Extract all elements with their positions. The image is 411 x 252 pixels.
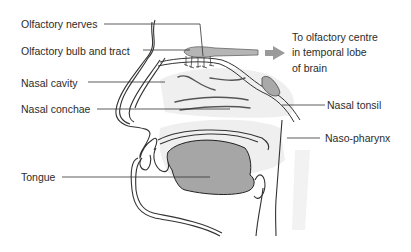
label-nasal-tonsil: Nasal tonsil [327, 99, 381, 111]
face-profile [116, 20, 165, 126]
olfactory-bulb-tract [184, 47, 258, 57]
label-naso-pharynx: Naso-pharynx [325, 132, 390, 144]
tongue [167, 140, 254, 194]
label-tongue: Tongue [21, 171, 55, 183]
label-olfactory-centre-line3: of brain [292, 62, 327, 74]
arrow-right-icon [265, 46, 285, 60]
label-nasal-conchae: Nasal conchae [21, 103, 90, 115]
label-olfactory-centre-line2: in temporal lobe [292, 46, 367, 58]
label-olfactory-bulb-tract: Olfactory bulb and tract [21, 45, 130, 57]
label-olfactory-centre-line1: To olfactory centre [292, 31, 378, 43]
label-nasal-cavity: Nasal cavity [21, 77, 78, 89]
label-olfactory-nerves: Olfactory nerves [21, 18, 97, 30]
